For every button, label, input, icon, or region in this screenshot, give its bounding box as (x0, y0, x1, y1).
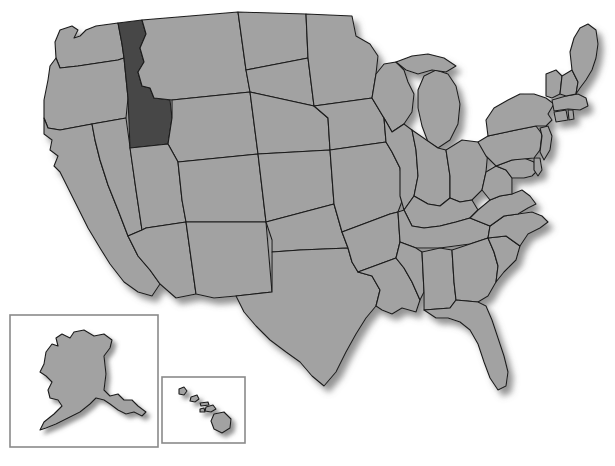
state-massachusetts[interactable] (552, 94, 588, 111)
state-georgia[interactable] (452, 238, 498, 302)
state-connecticut[interactable] (554, 110, 568, 122)
state-michigan[interactable] (418, 70, 460, 148)
state-florida[interactable] (424, 300, 508, 390)
island-molokai[interactable] (200, 402, 209, 406)
state-minnesota[interactable] (306, 14, 378, 106)
island-maui[interactable] (205, 405, 216, 412)
state-alabama[interactable] (422, 248, 456, 310)
state-rhode-island[interactable] (568, 110, 574, 120)
state-alaska[interactable] (40, 330, 146, 430)
state-montana[interactable] (138, 12, 250, 100)
alaska-inset[interactable] (10, 315, 158, 447)
state-new-mexico[interactable] (186, 222, 272, 298)
island-kauai[interactable] (179, 387, 187, 395)
state-new-jersey[interactable] (540, 126, 552, 160)
contiguous-states-group (44, 12, 598, 390)
state-wyoming[interactable] (168, 92, 258, 162)
us-map-svg (0, 0, 615, 466)
hawaii-inset[interactable] (162, 377, 245, 443)
state-oregon[interactable] (44, 58, 128, 130)
island-oahu[interactable] (190, 395, 199, 402)
state-colorado[interactable] (178, 154, 266, 222)
island-lanai[interactable] (200, 408, 205, 412)
us-map (0, 0, 615, 466)
state-michigan-upper-peninsula[interactable] (396, 54, 456, 74)
island-hawaii[interactable] (211, 412, 231, 433)
